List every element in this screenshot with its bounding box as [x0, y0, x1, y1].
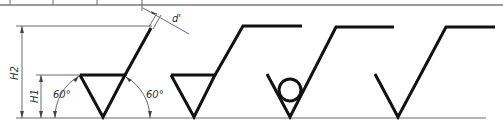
angle-left-label: 60°	[53, 89, 71, 100]
diagram-svg: H2 H1 60° 60° d'	[0, 0, 503, 128]
line-width-label: d'	[172, 13, 181, 24]
h1-label: H1	[29, 89, 40, 103]
symbol-basic	[80, 28, 151, 117]
angle-arcs: 60° 60°	[53, 76, 164, 118]
symbol-extended	[375, 27, 495, 117]
symbol-no-material-removal	[267, 27, 394, 117]
roughness-symbol-diagram: H2 H1 60° 60° d'	[0, 0, 503, 128]
top-frame	[0, 0, 503, 11]
angle-right-label: 60°	[146, 89, 164, 100]
h2-label: H2	[9, 66, 20, 80]
h2-dimension: H2	[9, 26, 152, 118]
